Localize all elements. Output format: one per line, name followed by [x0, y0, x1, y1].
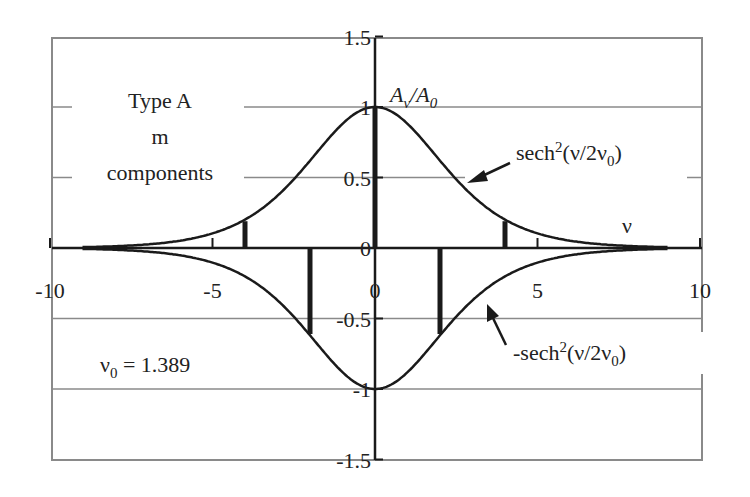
x-tick-label: 5 [532, 278, 543, 303]
sech-squared-chart: -10-505101.510.50-0.5-1-1.5 Type A m com… [0, 0, 750, 497]
y-tick-label: -1.5 [336, 448, 371, 473]
y-tick-label: 0 [360, 236, 371, 261]
type-label-line2: m [151, 124, 168, 149]
x-axis-label: ν [622, 213, 632, 238]
y-tick-label: -0.5 [336, 307, 371, 332]
y-axis-label: Aν/A0 [388, 82, 438, 111]
y-tick-label: -1 [353, 377, 371, 402]
y-tick-label: 1.5 [344, 25, 372, 50]
x-tick-label: 0 [370, 278, 381, 303]
type-label-line1: Type A [128, 88, 192, 113]
arrow-to-negative-curve [487, 304, 506, 345]
x-tick-label: 10 [689, 278, 711, 303]
negative-curve-label: -sech2(ν/2ν0) [513, 339, 626, 369]
x-tick-label: -10 [35, 278, 64, 303]
y-tick-label: 0.5 [344, 166, 372, 191]
y-tick-label: 1 [360, 95, 371, 120]
type-label-line3: components [107, 160, 213, 185]
positive-curve-label: sech2(ν/2ν0) [516, 139, 622, 169]
nu0-value-label: ν0 = 1.389 [100, 352, 190, 381]
x-tick-label: -5 [203, 278, 221, 303]
